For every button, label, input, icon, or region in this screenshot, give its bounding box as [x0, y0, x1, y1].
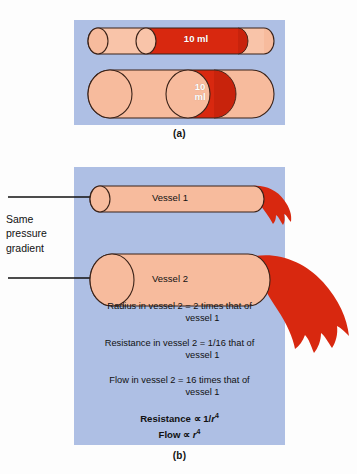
panel-a-caption: (a) [74, 128, 285, 139]
stat-flow: Flow in vessel 2 = 16 times that of vess… [78, 374, 281, 398]
vessel-1-graphic [90, 184, 266, 214]
formula-resistance-exp: 4 [215, 412, 219, 419]
figure-root: 10 ml 10 ml (a) Same pressure gradient [0, 0, 357, 474]
formula-resistance-prop: ∝ [194, 414, 201, 425]
stat-radius-line1: Radius in vessel 2 = 2 times that of [107, 301, 251, 311]
stat-flow-line1: Flow in vessel 2 = 16 times that of [109, 375, 249, 385]
panel-a-large-vessel: 10 ml [88, 68, 274, 120]
stat-resistance: Resistance in vessel 2 = 1/16 that of ve… [78, 337, 281, 361]
stat-resistance-line1: Resistance in vessel 2 = 1/16 that of [105, 338, 255, 348]
formula-flow-prop: ∝ [183, 429, 190, 440]
stat-flow-line2: vessel 1 [124, 386, 281, 398]
formula-flow-name: Flow [159, 429, 181, 440]
formula-resistance: Resistance ∝ 1/r4 [78, 411, 281, 426]
panel-b-caption: (b) [74, 450, 285, 461]
same-pressure-gradient-label: Same pressure gradient [6, 212, 74, 255]
panel-a-small-vessel: 10 ml [88, 26, 274, 56]
formula-resistance-pre: 1/ [203, 414, 211, 425]
formula-resistance-name: Resistance [140, 414, 191, 425]
panel-b-stats: Radius in vessel 2 = 2 times that of ves… [78, 300, 281, 442]
stat-radius-line2: vessel 1 [124, 312, 281, 324]
small-vessel-graphic [88, 26, 274, 56]
stat-resistance-line2: vessel 1 [124, 349, 281, 361]
stat-radius: Radius in vessel 2 = 2 times that of ves… [78, 300, 281, 324]
formula-flow: Flow ∝ r4 [78, 427, 281, 442]
panel-b-vessel-1: Vessel 1 [90, 184, 266, 214]
large-vessel-graphic [88, 68, 274, 120]
formula-flow-exp: 4 [197, 428, 201, 435]
panel-b-formulas: Resistance ∝ 1/r4 Flow ∝ r4 [78, 411, 281, 441]
